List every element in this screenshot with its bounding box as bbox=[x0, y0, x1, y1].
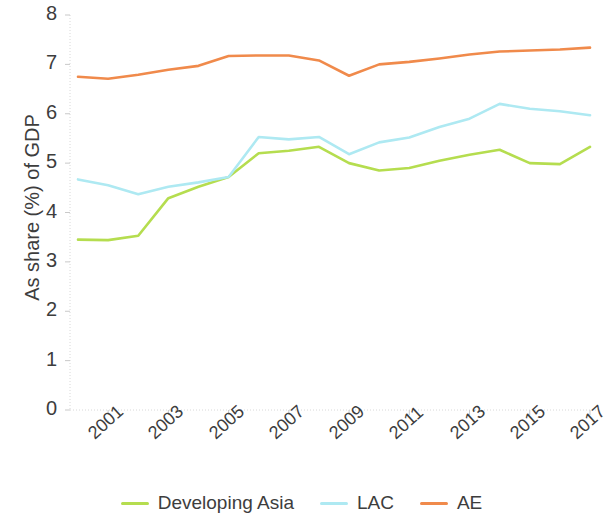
legend-item-lac[interactable]: LAC bbox=[320, 492, 394, 514]
y-tick-label: 6 bbox=[23, 101, 57, 124]
legend-swatch-icon bbox=[320, 502, 348, 505]
y-tick-label: 3 bbox=[23, 249, 57, 272]
legend-swatch-icon bbox=[420, 502, 448, 505]
y-tick-label: 4 bbox=[23, 200, 57, 223]
series-line-lac bbox=[78, 104, 590, 194]
legend-label: Developing Asia bbox=[158, 492, 294, 514]
y-tick-label: 8 bbox=[23, 2, 57, 25]
y-tick-label: 0 bbox=[23, 397, 57, 420]
y-tick-label: 5 bbox=[23, 150, 57, 173]
y-tick-label: 2 bbox=[23, 298, 57, 321]
series-line-ae bbox=[78, 48, 590, 79]
series-line-developing-asia bbox=[78, 147, 590, 240]
legend-item-ae[interactable]: AE bbox=[420, 492, 482, 514]
y-tick-label: 7 bbox=[23, 51, 57, 74]
chart-legend: Developing AsiaLACAE bbox=[0, 492, 603, 514]
legend-label: AE bbox=[457, 492, 482, 514]
legend-swatch-icon bbox=[121, 502, 149, 505]
legend-item-developing-asia[interactable]: Developing Asia bbox=[121, 492, 294, 514]
y-tick-label: 1 bbox=[23, 348, 57, 371]
legend-label: LAC bbox=[357, 492, 394, 514]
